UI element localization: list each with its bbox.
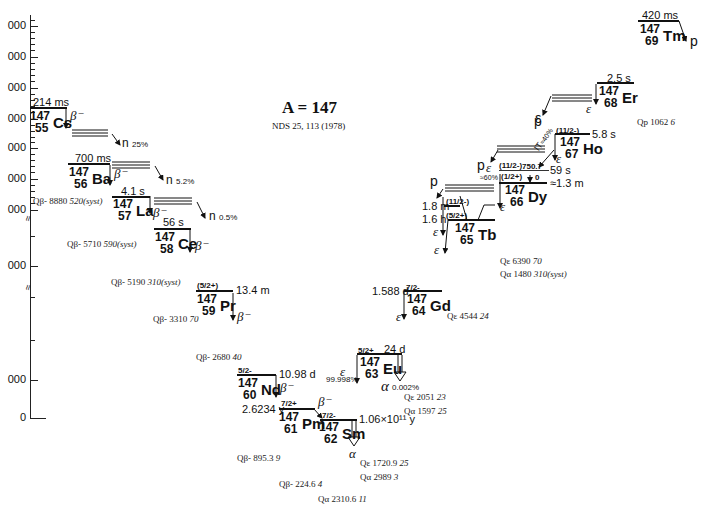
atomic-number: 56 [69, 178, 89, 190]
q-number: 2051 [417, 392, 435, 402]
pr-decay-mode: β⁻ [237, 309, 250, 325]
q-value: Qα 1597 25 [404, 406, 447, 416]
element-symbol: La [136, 203, 154, 218]
branch-pct: 5.2% [176, 177, 194, 186]
q-uncertainty: 3 [394, 472, 399, 482]
q-label: Qβ- [33, 196, 47, 206]
pm-spin-parity: 7/2+ [281, 399, 297, 408]
q-number: 2989 [373, 472, 391, 482]
q-label: Qε [447, 311, 457, 321]
nuclide-sm147: 147 62 Sm [319, 421, 339, 445]
branch-pct: 0.5% [219, 213, 237, 222]
dy-ground-half-life: ≈1.3 m [550, 177, 584, 189]
q-label: Qβ- [237, 453, 251, 463]
q-value: Qβ- 8880 520(syst) [33, 196, 103, 206]
branch-pct: 25% [132, 140, 148, 149]
dy-epsilon-ground: ε [500, 199, 505, 215]
pm-half-life: 2.6234 y [242, 403, 284, 415]
nuclide-nd147: 147 60 Nd [238, 377, 258, 401]
q-value: Qα 1480 310(syst) [500, 269, 567, 279]
pr-spin-parity: (5/2+) [197, 281, 218, 290]
q-label: Qβ- [153, 314, 167, 324]
q-uncertainty: 9 [276, 453, 281, 463]
element-symbol: Ba [92, 171, 111, 186]
element-symbol: Ho [583, 141, 603, 156]
q-value: Qp 1062 6 [637, 117, 675, 127]
tb-epsilon-2: ε [434, 242, 439, 258]
q-uncertainty: 4 [318, 479, 323, 489]
dy-epsilon-pct: ≈60% [480, 174, 498, 181]
q-label: Qα [404, 406, 415, 416]
eu-alpha-pct: 0.002% [392, 383, 419, 392]
nuclide-ba147: 147 56 Ba [69, 166, 89, 190]
q-label: Qβ- [111, 277, 125, 287]
atomic-number: 63 [360, 368, 380, 380]
nuclide-ho147: 147 67 Ho [560, 136, 580, 160]
q-label: Qβ- [279, 479, 293, 489]
q-number: 3310 [169, 314, 187, 324]
atomic-number: 58 [155, 243, 175, 255]
q-uncertainty: 11 [358, 494, 366, 504]
nd-half-life: 10.98 d [279, 368, 316, 380]
branch-label: n [122, 136, 129, 150]
element-symbol: Tb [478, 227, 496, 242]
dy-isomer-spin: (11/2-) [499, 161, 522, 170]
q-number: 1062 [650, 117, 668, 127]
q-number: 6390 [513, 256, 531, 266]
q-label: Qα [318, 494, 329, 504]
eu-epsilon-pct: 99.998% [326, 375, 358, 384]
nuclide-tb147: 147 65 Tb [455, 222, 475, 246]
sm-decay-mode: α [349, 446, 356, 462]
element-symbol: Dy [528, 189, 547, 204]
q-uncertainty: 310(syst) [148, 277, 181, 287]
tb-isomer-level [444, 205, 460, 207]
element-symbol: Tm [663, 28, 686, 43]
atomic-number: 65 [455, 234, 475, 246]
atomic-number: 64 [407, 305, 427, 317]
q-uncertainty: 520(syst) [70, 196, 103, 206]
cs-decay-mode: β⁻ [70, 108, 83, 124]
ho-half-life: 5.8 s [592, 128, 616, 140]
gd-decay-mode: ε [396, 309, 401, 325]
pm-decay-mode: β⁻ [318, 394, 331, 410]
la-neutron-branch: n 0.5% [209, 209, 237, 223]
q-value: Qα 2310.6 11 [318, 494, 367, 504]
branch-label: n [209, 209, 216, 223]
q-value: Qα 2989 3 [360, 472, 398, 482]
tb-epsilon-1: ε [433, 224, 438, 240]
q-value: Qβ- 2680 40 [196, 352, 242, 362]
element-symbol: Pr [220, 298, 236, 313]
nuclide-cs147: 147 55 Cs [30, 110, 50, 134]
q-value: Qβ- 5190 310(syst) [111, 277, 181, 287]
q-uncertainty: 6 [671, 117, 676, 127]
q-number: 5190 [127, 277, 145, 287]
q-uncertainty: 70 [190, 314, 199, 324]
q-label: Qε [500, 256, 510, 266]
dy-proton-label: p [477, 157, 485, 173]
q-number: 4544 [460, 311, 478, 321]
atomic-number: 68 [599, 97, 619, 109]
dy-ground-energy: 0 [535, 173, 539, 182]
q-uncertainty: 24 [480, 311, 489, 321]
q-value: Qβ- 5710 590(syst) [67, 239, 137, 249]
q-number: 895.3 [253, 453, 273, 463]
ho-decay-mode: ε [556, 151, 561, 167]
pr-half-life: 13.4 m [236, 284, 270, 296]
q-value: Qε 1720.9 25 [360, 458, 409, 468]
q-number: 8880 [49, 196, 67, 206]
q-value: Qε 2051 23 [404, 392, 446, 402]
atomic-number: 59 [197, 305, 217, 317]
eu-alpha-label: α [381, 378, 389, 395]
er-proton-label: ε [535, 110, 541, 126]
atomic-number: 69 [640, 35, 660, 47]
element-symbol: Eu [383, 361, 402, 376]
q-value: Qε 4544 24 [447, 311, 489, 321]
atomic-number: 61 [279, 423, 299, 435]
er-decay-mode: ε [586, 101, 591, 117]
nuclide-pr147: 147 59 Pr [197, 293, 217, 317]
ce-decay-mode: β⁻ [195, 238, 208, 254]
nuclide-dy147: 147 66 Dy [505, 184, 525, 208]
q-number: 2310.6 [331, 494, 356, 504]
q-uncertainty: 590(syst) [104, 239, 137, 249]
nuclide-pm147: 147 61 Pm [279, 411, 299, 435]
